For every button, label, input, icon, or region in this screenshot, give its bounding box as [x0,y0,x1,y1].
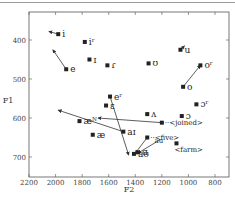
vowel-label: ɪ [93,55,96,65]
x-tick-label: 1600 [100,179,118,187]
vowel-marker [77,119,81,123]
vowel-label: ʊ [153,58,159,68]
vowel-marker [108,95,112,99]
word-annotation: ··<joined> [165,119,203,127]
x-tick-label: 800 [208,179,221,187]
vowel-marker [145,112,149,116]
y-axis-label: F1 [3,96,14,105]
vowel-marker [194,102,198,106]
x-tick-label: 1000 [180,179,198,187]
vowel-label: ɔʳ [200,99,208,109]
vowel-marker [64,67,68,71]
word-marker [174,141,178,145]
vowel-label: æ [97,130,105,140]
x-tick-label: 2200 [20,179,38,187]
vowel-marker [83,40,87,44]
trajectory-arrow [53,50,66,70]
vowel-label: aɪ [127,127,135,137]
vowel-marker [180,114,184,118]
x-axis-label: F2 [124,185,135,194]
vowel-label: ʌ [150,109,157,119]
vowel-marker [181,85,185,89]
vowel-label: eʳ [114,92,122,102]
y-tick-label: 700 [13,154,26,162]
word-annotation: au [155,137,164,145]
y-tick-label: 400 [13,37,26,45]
vowel-marker [178,48,182,52]
word-marker [160,121,164,125]
vowel-label: u [184,45,190,55]
x-tick-label: 2000 [47,179,65,187]
vowel-label: ɾ [111,60,115,70]
word-annotation: <farm> [174,146,203,154]
word-marker [145,136,149,140]
vowel-marker [56,32,60,36]
word-annotations: ··<joined>··<five><farm>au [145,119,203,154]
vowel-marker [87,58,91,62]
vowel-label: æᴺ [83,116,96,126]
y-tick-label: 600 [13,115,26,123]
vowel-marker [105,63,109,67]
vowel-marker [91,133,95,137]
vowel-marker [198,63,202,67]
vowel-label: o [187,82,192,92]
vowel-label: e [70,64,75,74]
vowel-label: oʳ [204,60,213,70]
vowel-marker [121,130,125,134]
x-tick-label: 1200 [153,179,171,187]
vowel-label: aʊ [138,149,149,159]
x-tick-label: 1800 [73,179,91,187]
y-tick-label: 500 [13,76,26,84]
vowel-marker [132,152,136,156]
vowel-marker [147,61,151,65]
vowel-marker [104,104,108,108]
vowel-label: iʳ [89,37,95,47]
vowel-label: i [62,29,65,39]
vowel-points: iiʳɪeɾʊuoʳoeʳɛæᴺæʌɔʳɔaɪɑaʊ [56,29,213,159]
vowel-label: ɛ [110,101,115,111]
vowel-formant-chart: 2200200018001600140012001000800 40050060… [0,0,235,197]
